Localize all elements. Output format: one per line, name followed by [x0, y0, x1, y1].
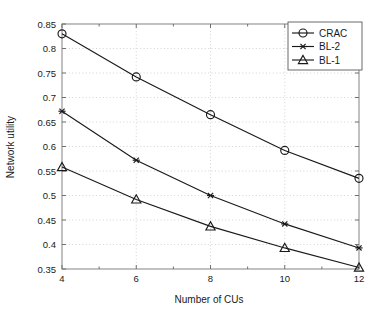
asterisk-marker	[207, 193, 214, 198]
x-axis-title: Number of CUs	[175, 294, 244, 305]
y-tick-label: 0.7	[43, 92, 56, 103]
y-tick-label: 0.8	[43, 43, 56, 54]
x-tick-label: 10	[279, 273, 290, 284]
x-tick-label: 4	[59, 273, 64, 284]
x-tick-label: 6	[134, 273, 139, 284]
y-tick-label: 0.45	[38, 215, 57, 226]
y-tick-label: 0.65	[38, 117, 57, 128]
y-tick-label: 0.4	[43, 239, 56, 250]
x-tick-label: 12	[354, 273, 365, 284]
asterisk-marker	[133, 158, 140, 163]
y-tick-label: 0.6	[43, 141, 56, 152]
y-tick-label: 0.75	[38, 68, 57, 79]
y-axis-tick-labels: 0.350.40.450.50.550.60.650.70.750.80.85	[38, 19, 57, 275]
x-axis-tick-labels: 4681012	[59, 273, 364, 284]
y-tick-label: 0.85	[38, 19, 57, 30]
chart-legend: CRACBL-2BL-1	[288, 22, 362, 70]
y-axis-title: Network utility	[5, 116, 16, 178]
y-tick-label: 0.55	[38, 166, 57, 177]
legend-label: BL-1	[319, 55, 341, 66]
legend-label: BL-2	[319, 41, 341, 52]
legend-label: CRAC	[319, 28, 347, 39]
series-bl-1	[57, 162, 363, 271]
y-tick-label: 0.35	[38, 264, 57, 275]
y-tick-label: 0.5	[43, 190, 56, 201]
line-chart: 0.350.40.450.50.550.60.650.70.750.80.85 …	[0, 0, 379, 311]
series-line-path	[62, 111, 359, 248]
x-tick-label: 8	[208, 273, 213, 284]
chart-figure: 0.350.40.450.50.550.60.650.70.750.80.85 …	[0, 0, 379, 311]
